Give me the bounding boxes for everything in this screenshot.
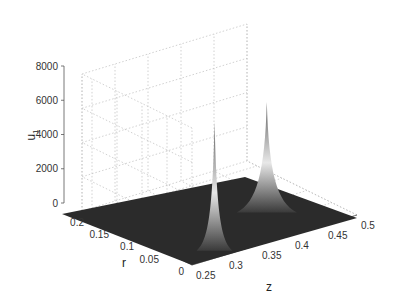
z-axis-label: u1 bbox=[24, 129, 40, 141]
y-tick-label: 0.15 bbox=[90, 229, 110, 240]
z-axis-label-sub: 1 bbox=[31, 129, 40, 134]
z-tick-label: 8000 bbox=[36, 61, 59, 72]
y-tick-label: 0.2 bbox=[70, 217, 84, 228]
surface bbox=[62, 102, 357, 265]
y-tick-label: 0.1 bbox=[120, 241, 134, 252]
x-tick-label: 0.45 bbox=[328, 230, 348, 241]
z-tick-label: 0 bbox=[52, 198, 58, 209]
surface-plot: 020004000600080000.250.30.350.40.450.500… bbox=[0, 0, 398, 306]
x-tick-label: 0.5 bbox=[361, 220, 375, 231]
y-tick-label: 0 bbox=[178, 266, 184, 277]
z-tick-label: 6000 bbox=[36, 95, 59, 106]
z-tick-label: 2000 bbox=[36, 163, 59, 174]
x-axis-label: z bbox=[266, 280, 272, 294]
z-axis-label-main: u bbox=[24, 134, 38, 141]
y-tick-label: 0.05 bbox=[140, 254, 160, 265]
x-tick-label: 0.3 bbox=[229, 260, 243, 271]
svg-text:u1: u1 bbox=[24, 129, 40, 141]
x-tick-label: 0.35 bbox=[262, 250, 282, 261]
x-tick-label: 0.25 bbox=[196, 270, 216, 281]
y-axis-label: r bbox=[122, 256, 126, 270]
x-tick-label: 0.4 bbox=[295, 240, 309, 251]
